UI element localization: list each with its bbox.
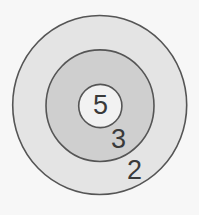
inner-ring-label: 5 [93,90,108,120]
outer-ring-label: 2 [127,155,142,185]
target-diagram: 5 3 2 [0,0,199,215]
middle-ring-label: 3 [111,124,126,154]
